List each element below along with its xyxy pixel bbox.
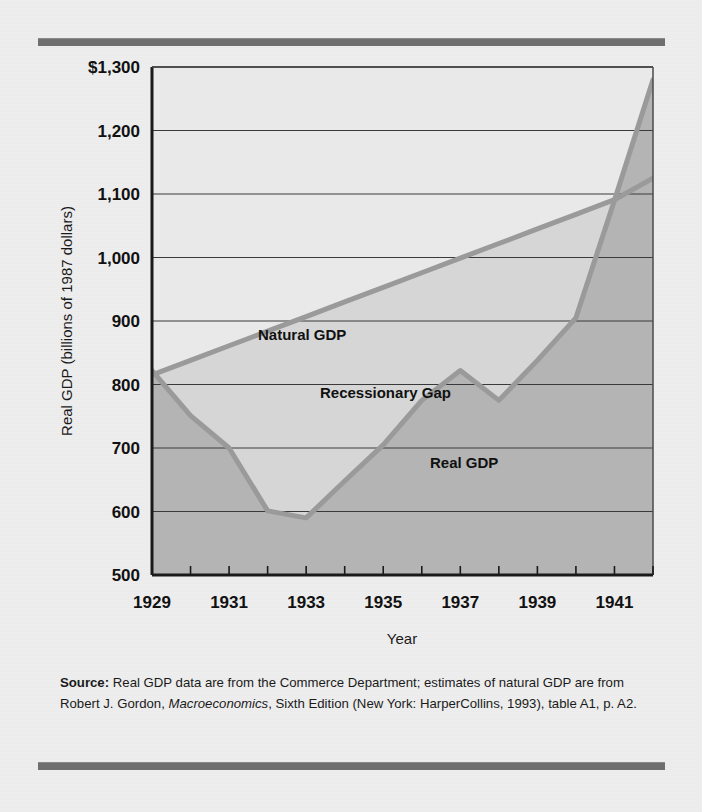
y-tick-label: 1,200 [97,122,140,141]
x-tick-label: 1935 [364,593,402,612]
figure-container: $1,3001,2001,1001,000900800700600500 192… [0,0,702,812]
y-tick-label: 600 [112,503,140,522]
y-tick-label: 1,000 [97,249,140,268]
y-tick-label: 900 [112,312,140,331]
y-tick-label: 800 [112,376,140,395]
chart-area: $1,3001,2001,1001,000900800700600500 192… [0,50,702,650]
x-tick-label: 1939 [518,593,556,612]
y-axis-title: Real GDP (billions of 1987 dollars) [58,206,75,436]
source-prefix: Source: [60,675,109,690]
real-gdp-annotation: Real GDP [430,454,498,471]
gdp-line-chart: $1,3001,2001,1001,000900800700600500 192… [0,50,702,650]
x-axis-title: Year [387,630,417,647]
y-tick-label: $1,300 [88,58,140,77]
source-text-part2: , Sixth Edition (New York: HarperCollins… [268,696,637,711]
x-tick-label: 1929 [133,593,171,612]
y-tick-label: 1,100 [97,185,140,204]
source-italic-title: Macroeconomics [168,696,268,711]
y-tick-labels: $1,3001,2001,1001,000900800700600500 [88,58,140,585]
bottom-rule [38,762,665,770]
y-tick-label: 700 [112,439,140,458]
natural-gdp-annotation: Natural GDP [258,326,346,343]
x-tick-label: 1937 [441,593,479,612]
top-rule [38,38,665,46]
x-tick-label: 1931 [210,593,248,612]
x-tick-label: 1933 [287,593,325,612]
recessionary-gap-annotation: Recessionary Gap [320,384,451,401]
y-tick-label: 500 [112,566,140,585]
source-note: Source: Real GDP data are from the Comme… [60,672,650,714]
x-tick-labels: 1929193119331935193719391941 [133,593,633,612]
x-tick-label: 1941 [596,593,634,612]
